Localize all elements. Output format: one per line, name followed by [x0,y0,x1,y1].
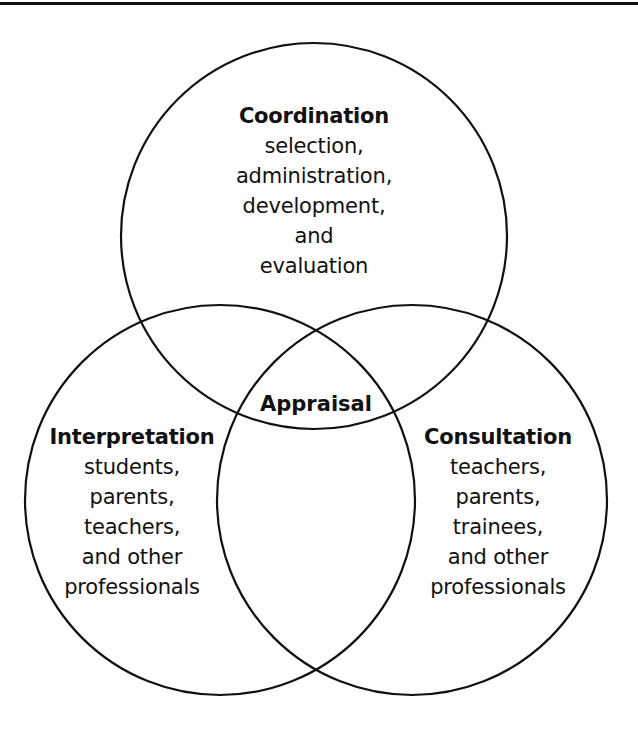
interpretation-line: students, [32,452,232,482]
coordination-line: selection, [214,131,414,161]
consultation-line: professionals [398,572,598,602]
coordination-line: administration, [214,161,414,191]
consultation-line: teachers, [398,452,598,482]
consultation-title: Consultation [398,422,598,452]
interpretation-title: Interpretation [32,422,232,452]
interpretation-line: and other [32,542,232,572]
coordination-line: evaluation [214,251,414,281]
consultation-line: and other [398,542,598,572]
consultation-line: trainees, [398,512,598,542]
interpretation-line: parents, [32,482,232,512]
coordination-title: Coordination [214,101,414,131]
appraisal-label: Appraisal [250,389,382,419]
interpretation-label: Interpretation students, parents, teache… [32,422,232,602]
interpretation-line: professionals [32,572,232,602]
coordination-label: Coordination selection, administration, … [214,101,414,281]
consultation-label: Consultation teachers, parents, trainees… [398,422,598,602]
coordination-line: development, [214,191,414,221]
coordination-line: and [214,221,414,251]
consultation-line: parents, [398,482,598,512]
interpretation-line: teachers, [32,512,232,542]
